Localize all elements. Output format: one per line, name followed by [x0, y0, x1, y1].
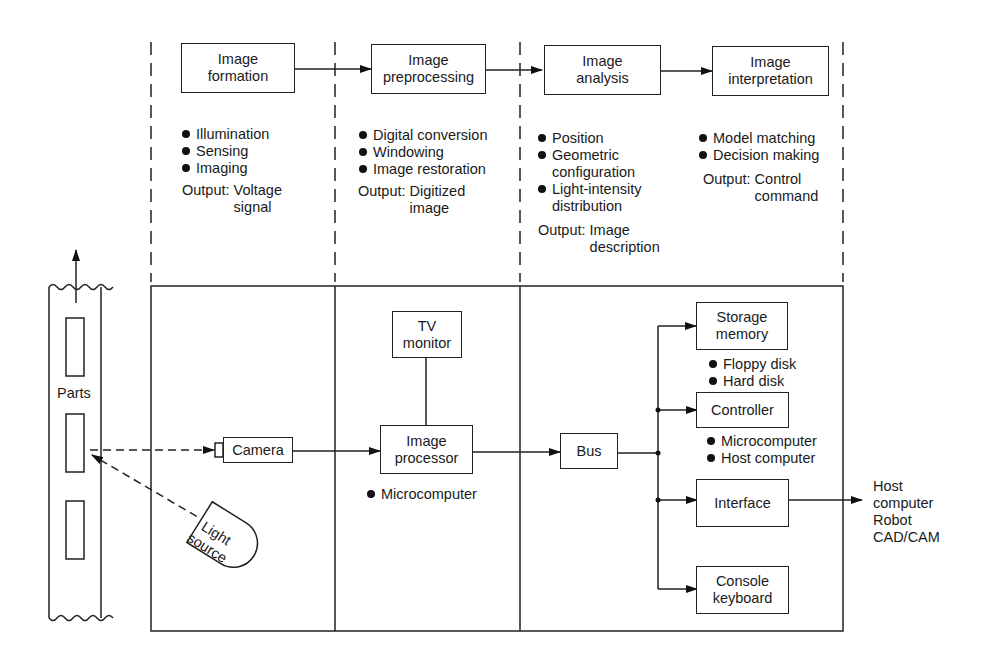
image-processor-bullets: Microcomputer — [365, 486, 477, 503]
stage-title-line1: Image — [576, 53, 628, 70]
output-label: Output: — [358, 183, 406, 199]
storage-line2: memory — [716, 326, 768, 343]
bullet-item: Geometric configuration — [536, 147, 641, 181]
console-line2: keyboard — [713, 590, 773, 607]
stage-interpretation-output: Output: Controlcommand — [703, 171, 818, 205]
bullet-item: Digital conversion — [357, 127, 487, 144]
image-processor-box: Imageprocessor — [380, 425, 473, 474]
bullet-item: Light-intensity distribution — [536, 181, 641, 215]
bullet-item: Host computer — [705, 450, 817, 467]
stage-preprocessing-bullets: Digital conversion Windowing Image resto… — [357, 127, 487, 178]
bullet-item: Decision making — [697, 147, 819, 164]
bullet-item: Microcomputer — [365, 486, 477, 503]
stage-title-line1: Image — [728, 54, 813, 71]
stage-analysis-output: Output: Imagedescription — [538, 222, 660, 256]
console-keyboard-box: Consolekeyboard — [696, 566, 789, 614]
bullet-item: Windowing — [357, 144, 487, 161]
stage-image-analysis: Imageanalysis — [544, 45, 661, 95]
image-processor-line2: processor — [395, 450, 459, 467]
tv-monitor-line1: TV — [403, 318, 451, 335]
stage-image-formation: Imageformation — [181, 43, 295, 93]
output-value-line2: command — [755, 188, 819, 204]
stage-title-line2: analysis — [576, 70, 628, 87]
stage-image-interpretation: Imageinterpretation — [712, 46, 829, 96]
controller-bullets: Microcomputer Host computer — [705, 433, 817, 467]
console-line1: Console — [713, 573, 773, 590]
stage-formation-output: Output: Voltagesignal — [182, 182, 282, 216]
bus-box: Bus — [560, 433, 618, 469]
tv-monitor-box: TVmonitor — [392, 311, 462, 358]
storage-bullets: Floppy disk Hard disk — [707, 356, 796, 390]
output-value-line1: Image — [590, 222, 630, 238]
bullet-item: Sensing — [180, 143, 269, 160]
bullet-item: Illumination — [180, 126, 269, 143]
controller-box: Controller — [696, 392, 789, 428]
output-label: Output: — [703, 171, 751, 187]
output-label: Output: — [538, 222, 586, 238]
bullet-item: Position — [536, 130, 641, 147]
stage-title-line2: preprocessing — [383, 69, 474, 86]
controller-label: Controller — [711, 402, 774, 419]
output-value-line2: description — [590, 239, 660, 255]
interface-label: Interface — [714, 495, 770, 512]
camera-box: Camera — [223, 437, 293, 463]
output-value-line1: Voltage — [234, 182, 282, 198]
bullet-item: Floppy disk — [707, 356, 796, 373]
stage-title-line1: Image — [383, 52, 474, 69]
stage-analysis-bullets: Position Geometric configuration Light-i… — [536, 130, 641, 215]
image-processor-line1: Image — [395, 433, 459, 450]
stage-preprocessing-output: Output: Digitizedimage — [358, 183, 465, 217]
tv-monitor-line2: monitor — [403, 335, 451, 352]
bullet-item: Image restoration — [357, 161, 487, 178]
camera-label: Camera — [232, 442, 284, 459]
external-target: CAD/CAM — [873, 529, 940, 546]
external-target: Host — [873, 478, 940, 495]
output-label: Output: — [182, 182, 230, 198]
bullet-item: Microcomputer — [705, 433, 817, 450]
stage-formation-bullets: Illumination Sensing Imaging — [180, 126, 269, 177]
stage-title-line1: Image — [208, 51, 268, 68]
storage-memory-box: Storagememory — [696, 302, 788, 350]
interface-box: Interface — [696, 479, 789, 527]
parts-label: Parts — [57, 385, 91, 402]
stage-interpretation-bullets: Model matching Decision making — [697, 130, 819, 164]
output-value-line2: image — [410, 200, 450, 216]
external-target: Robot — [873, 512, 940, 529]
bullet-item: Hard disk — [707, 373, 796, 390]
external-targets: Host computer Robot CAD/CAM — [873, 478, 940, 546]
bullet-item: Model matching — [697, 130, 819, 147]
output-value-line1: Digitized — [410, 183, 466, 199]
output-value-line1: Control — [755, 171, 802, 187]
stage-image-preprocessing: Imagepreprocessing — [371, 44, 486, 94]
output-value-line2: signal — [234, 199, 272, 215]
bullet-item: Imaging — [180, 160, 269, 177]
bus-label: Bus — [577, 443, 602, 460]
storage-line1: Storage — [716, 309, 768, 326]
external-target: computer — [873, 495, 940, 512]
diagram-wires — [0, 0, 1002, 662]
stage-title-line2: interpretation — [728, 71, 813, 88]
stage-title-line2: formation — [208, 68, 268, 85]
